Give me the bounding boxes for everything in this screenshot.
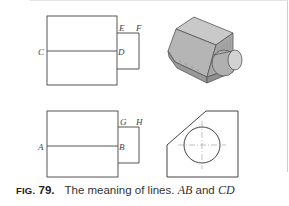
figure-caption: FIG. 79. The meaning of lines. AB and CD [16, 183, 235, 198]
caption-text: The meaning of lines. [64, 184, 174, 196]
label-d: D [117, 47, 125, 57]
label-h: H [135, 117, 143, 127]
caption-and: and [196, 184, 215, 196]
orthographic-view-top [47, 16, 139, 85]
chamfered-face-icon [167, 111, 238, 177]
figure-drawing: C D E F A B G H [0, 0, 289, 206]
label-g: G [120, 117, 127, 127]
caption-fig-number: 79. [38, 184, 54, 196]
caption-var-cd: CD [218, 183, 235, 197]
label-f: F [135, 23, 142, 33]
label-b: B [119, 142, 125, 152]
isometric-block-icon [168, 17, 242, 83]
caption-var-ab: AB [178, 183, 193, 197]
label-e: E [118, 23, 125, 33]
label-a: A [37, 142, 44, 152]
caption-fig-word: FIG. [16, 185, 35, 196]
label-c: C [38, 47, 45, 57]
